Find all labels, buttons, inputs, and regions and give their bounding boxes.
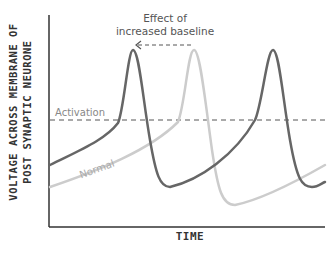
y-axis-label-line-2: POST SYNAPTIC NEURONE [20,12,34,212]
annotation-line-2: increased baseline [110,25,220,38]
annotation-line-1: Effect of [110,12,220,25]
x-axis-label: TIME [170,230,210,243]
activation-label: Activation [55,107,105,118]
y-axis-label-line-1: VOLTAGE ACROSS MEMBRANE OF [6,12,20,212]
effect-annotation: Effect of increased baseline [110,12,220,38]
chart-canvas [0,0,336,255]
y-axis-label: VOLTAGE ACROSS MEMBRANE OF POST SYNAPTIC… [6,12,40,212]
